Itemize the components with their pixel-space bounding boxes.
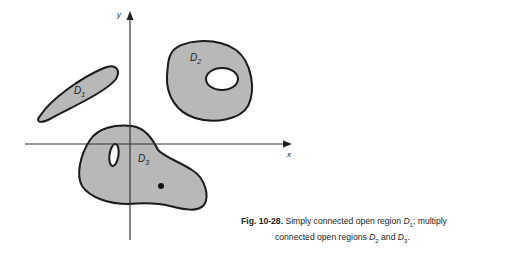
caption-line-2: connected open regions D2 and D3. xyxy=(241,231,501,247)
region-d2-hole xyxy=(206,68,238,90)
figure-number: Fig. 10-28. xyxy=(241,216,283,226)
x-axis-label: x xyxy=(286,150,292,159)
figure-caption: Fig. 10-28. Simply connected open region… xyxy=(241,215,501,246)
y-axis-arrow-icon xyxy=(127,11,134,20)
region-d3-removed-point xyxy=(158,183,164,189)
y-axis-label: y xyxy=(116,10,122,19)
caption-line-1: Fig. 10-28. Simply connected open region… xyxy=(241,215,501,231)
x-axis-arrow-icon xyxy=(283,141,292,148)
region-d3 xyxy=(79,126,206,210)
